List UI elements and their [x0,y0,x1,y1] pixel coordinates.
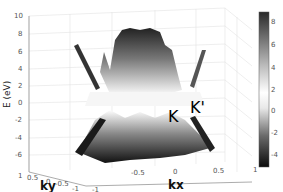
svg-text:-1: -1 [72,185,79,192]
svg-text:8: 8 [271,18,275,26]
k-point-label: K [168,107,179,126]
band-structure-figure: 10 8 6 4 2 0 -2 -4 -6 E (eV) K K' 1 0.5 … [0,0,283,192]
svg-text:1: 1 [18,172,22,180]
svg-text:-0.5: -0.5 [55,180,69,188]
svg-text:-2: -2 [271,129,278,137]
y-axis-label: ky [40,179,56,192]
valence-band-surface [75,110,215,163]
x-axis-label: kx [168,178,184,192]
z-axis-label: E (eV) [2,81,12,108]
svg-text:-4: -4 [15,134,23,142]
svg-text:0: 0 [173,168,177,176]
svg-text:-6: -6 [15,151,23,159]
svg-text:2: 2 [271,86,275,94]
svg-text:10: 10 [14,12,23,20]
svg-text:2: 2 [18,82,22,90]
svg-text:-1: -1 [92,186,99,192]
svg-text:-0.5: -0.5 [131,169,145,177]
conduction-band-surface [74,28,206,106]
svg-text:1: 1 [253,166,257,174]
svg-text:6: 6 [18,48,23,56]
svg-text:6: 6 [271,41,276,49]
colorbar: 8 6 4 2 0 -2 -4 [259,12,279,167]
svg-text:0: 0 [271,107,275,115]
svg-text:-2: -2 [15,116,22,124]
svg-text:8: 8 [18,30,22,38]
svg-text:-4: -4 [271,151,279,159]
svg-text:4: 4 [271,64,276,72]
z-axis-ticks: 10 8 6 4 2 0 -2 -4 -6 [14,12,23,159]
svg-text:0.5: 0.5 [27,174,38,182]
svg-text:4: 4 [18,65,23,73]
svg-text:0.5: 0.5 [213,167,224,175]
svg-text:0: 0 [18,99,22,107]
k-prime-point-label: K' [190,98,205,117]
